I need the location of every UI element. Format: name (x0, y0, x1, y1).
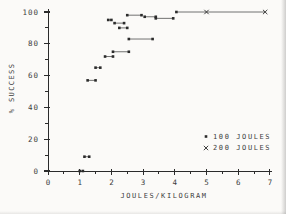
data-point-dot (94, 66, 97, 69)
plot-svg: 01234567020406080100JOULES/KILOGRAM% SUC… (0, 0, 286, 214)
defibrillation-success-chart: 01234567020406080100JOULES/KILOGRAM% SUC… (0, 0, 286, 214)
data-point-dot (154, 17, 157, 20)
data-point-dot (128, 50, 131, 53)
legend-label: 200 JOULES (213, 144, 271, 152)
data-point-dot (118, 27, 121, 30)
x-tick-label: 0 (46, 178, 51, 187)
x-axis-title: JOULES/KILOGRAM (120, 192, 207, 200)
x-tick-label: 2 (109, 178, 114, 187)
data-point-dot (140, 14, 143, 17)
data-point-dot (82, 170, 85, 173)
y-tick-label: 80 (28, 39, 39, 48)
data-point-dot (107, 19, 110, 22)
data-point-dot (172, 17, 175, 20)
data-point-dot (112, 50, 115, 53)
data-point-dot (78, 170, 81, 173)
legend-label: 100 JOULES (213, 133, 271, 141)
x-tick-label: 6 (236, 178, 241, 187)
x-tick-label: 1 (77, 178, 82, 187)
x-tick-label: 7 (268, 178, 273, 187)
data-point-dot (128, 38, 131, 41)
data-point-dot (151, 38, 154, 41)
data-point-dot (175, 11, 178, 14)
data-point-dot (112, 55, 115, 58)
y-axis-title: % SUCCESS (8, 63, 16, 114)
x-tick-label: 3 (141, 178, 146, 187)
data-point-dot (86, 79, 89, 82)
x-tick-label: 5 (204, 178, 209, 187)
x-tick-label: 4 (173, 178, 178, 187)
data-point-dot (113, 22, 116, 25)
data-point-dot (123, 22, 126, 25)
data-point-dot (205, 135, 208, 138)
data-point-dot (83, 155, 86, 158)
y-tick-label: 0 (33, 167, 39, 176)
y-tick-label: 100 (22, 8, 39, 17)
data-point-dot (126, 27, 129, 30)
data-point-dot (104, 55, 107, 58)
data-point-dot (99, 66, 102, 69)
data-point-dot (126, 14, 129, 17)
data-point-dot (88, 155, 91, 158)
data-point-dot (110, 19, 113, 22)
y-tick-label: 60 (28, 71, 39, 80)
data-point-dot (94, 79, 97, 82)
y-tick-label: 40 (28, 103, 39, 112)
data-point-dot (143, 15, 146, 18)
y-tick-label: 20 (28, 135, 39, 144)
